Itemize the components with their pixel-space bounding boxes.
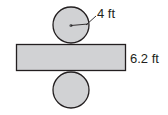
cylinder-net-diagram: 4 ft 6.2 ft bbox=[0, 0, 168, 115]
lateral-surface-rectangle bbox=[17, 45, 126, 71]
height-label: 6.2 ft bbox=[130, 51, 159, 66]
bottom-circle-base bbox=[53, 72, 89, 108]
radius-label: 4 ft bbox=[97, 6, 115, 21]
